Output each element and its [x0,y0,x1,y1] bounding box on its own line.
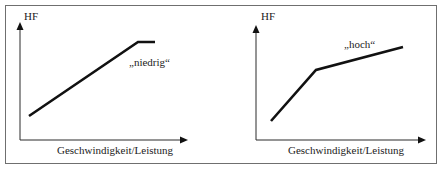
left-panel: HF „niedrig“ Geschwindigkeit/Leistung [17,10,189,156]
diagram-canvas: HF „niedrig“ Geschwindigkeit/Leistung HF… [0,0,441,174]
right-x-axis-arrow-icon [418,137,426,144]
right-y-axis-arrow-icon [253,25,260,33]
left-y-axis-arrow-icon [17,22,24,30]
right-y-label: HF [261,10,275,22]
left-curve-label: „niedrig“ [129,56,170,68]
left-y-label: HF [24,10,38,22]
left-x-label: Geschwindigkeit/Leistung [57,144,174,156]
right-curve-label: „hoch“ [344,38,375,50]
left-x-axis-arrow-icon [180,137,188,144]
right-curve-hoch [271,47,403,121]
right-panel: HF „hoch“ Geschwindigkeit/Leistung [253,10,427,156]
right-x-label: Geschwindigkeit/Leistung [288,144,405,156]
left-curve-niedrig [29,42,155,116]
